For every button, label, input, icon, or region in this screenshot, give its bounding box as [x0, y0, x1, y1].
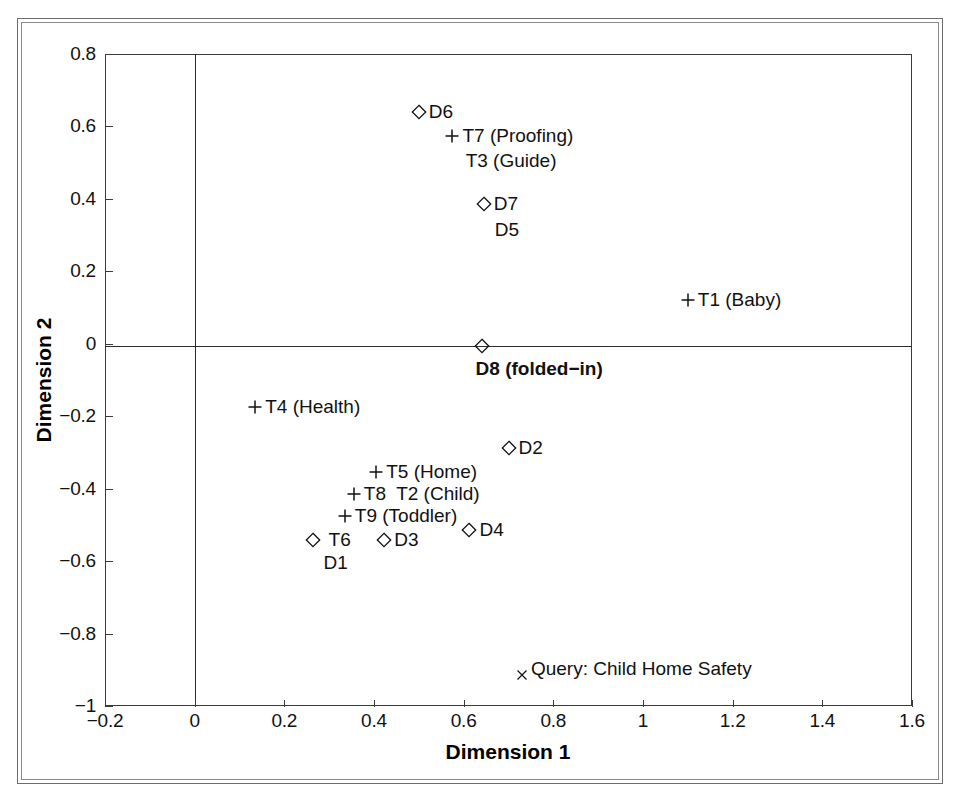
diamond-marker-icon: [377, 533, 392, 548]
x-tick-mark: [374, 700, 375, 707]
point-label-t2: T2 (Child): [396, 483, 479, 505]
x-tick-label: 0.4: [361, 710, 387, 732]
point-label-d4: D4: [479, 519, 503, 541]
cross-marker-icon: [516, 670, 527, 681]
x-tick-mark: [733, 700, 734, 707]
point-label-t3: T3 (Guide): [466, 150, 557, 172]
point-label-t1: T1 (Baby): [698, 289, 781, 311]
plus-marker-icon: [680, 292, 695, 307]
point-label-t9: T9 (Toddler): [355, 505, 457, 527]
y-tick-label: −1: [0, 695, 96, 717]
x-tick-mark: [643, 700, 644, 707]
y-axis-zero-line: [195, 54, 196, 706]
point-label-d5: D5: [495, 219, 519, 241]
x-tick-label: 0.2: [271, 710, 297, 732]
point-label-d7: D7: [494, 193, 518, 215]
plus-marker-icon: [445, 128, 460, 143]
y-tick-label: −0.8: [0, 623, 96, 645]
y-tick-mark: [106, 271, 113, 272]
y-tick-label: 0.8: [0, 43, 96, 65]
diamond-marker-icon: [501, 440, 516, 455]
x-axis-zero-line: [105, 346, 912, 347]
y-tick-mark: [106, 344, 113, 345]
point-label-d8: D8 (folded−in): [476, 358, 603, 380]
plus-marker-icon: [337, 508, 352, 523]
y-tick-label: −0.4: [0, 478, 96, 500]
point-label-d1: D1: [324, 552, 348, 574]
y-tick-mark: [106, 126, 113, 127]
x-tick-mark: [195, 700, 196, 707]
diamond-marker-icon: [305, 533, 320, 548]
y-tick-label: 0.6: [0, 115, 96, 137]
y-tick-mark: [106, 561, 113, 562]
x-tick-label: 1.6: [899, 710, 925, 732]
plus-marker-icon: [369, 465, 384, 480]
point-label-t7: T7 (Proofing): [462, 125, 573, 147]
y-tick-label: −0.6: [0, 550, 96, 572]
y-axis-title: Dimension 2: [32, 318, 56, 443]
x-axis-title: Dimension 1: [446, 740, 571, 764]
diamond-marker-icon: [462, 522, 477, 537]
y-tick-label: 0.2: [0, 260, 96, 282]
x-tick-label: 1.2: [720, 710, 746, 732]
plus-marker-icon: [346, 487, 361, 502]
x-tick-mark: [822, 700, 823, 707]
point-label-t6: T6: [329, 529, 351, 551]
point-label-t4: T4 (Health): [265, 396, 360, 418]
x-tick-mark: [912, 700, 913, 707]
point-label-t5: T5 (Home): [386, 461, 477, 483]
y-tick-label: 0.4: [0, 188, 96, 210]
plus-marker-icon: [248, 400, 263, 415]
y-tick-mark: [106, 199, 113, 200]
y-tick-mark: [106, 489, 113, 490]
point-label-d6: D6: [429, 101, 453, 123]
x-tick-mark: [464, 700, 465, 707]
figure-canvas: −0.200.20.40.60.811.21.41.6 0.80.60.40.2…: [0, 0, 960, 802]
y-tick-mark: [106, 706, 113, 707]
point-label-query: Query: Child Home Safety: [531, 658, 752, 680]
diamond-marker-icon: [474, 338, 489, 353]
y-tick-mark: [106, 634, 113, 635]
point-label-d2: D2: [519, 437, 543, 459]
x-tick-label: 0.8: [540, 710, 566, 732]
x-tick-label: 1: [638, 710, 648, 732]
point-label-d3: D3: [394, 529, 418, 551]
diamond-marker-icon: [476, 197, 491, 212]
y-tick-mark: [106, 416, 113, 417]
point-label-t8: T8: [364, 483, 386, 505]
x-tick-label: 1.4: [809, 710, 835, 732]
x-tick-label: 0.6: [451, 710, 477, 732]
x-tick-label: 0: [189, 710, 199, 732]
diamond-marker-icon: [411, 104, 426, 119]
x-tick-mark: [553, 700, 554, 707]
x-tick-mark: [284, 700, 285, 707]
